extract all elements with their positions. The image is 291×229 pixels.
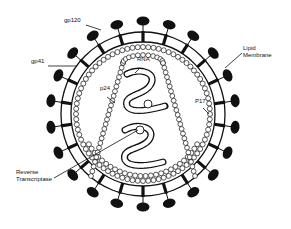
gp120-knob xyxy=(206,45,221,61)
gp41-stem xyxy=(163,183,166,194)
p17-matrix-bead xyxy=(207,101,212,106)
gp41-stem xyxy=(98,175,104,184)
p17-matrix-bead xyxy=(156,46,161,51)
p24-capsid-bead xyxy=(189,159,194,164)
p24-capsid-bead xyxy=(89,174,94,179)
p24-capsid-bead xyxy=(177,117,182,122)
gp41-stem xyxy=(61,102,72,104)
gp120-knob xyxy=(52,145,66,161)
p17-matrix-bead xyxy=(200,81,205,86)
gp41-stem xyxy=(197,161,205,168)
p24-capsid-bead xyxy=(106,112,111,117)
p24-capsid-bead xyxy=(183,141,188,146)
gp120-knob xyxy=(221,68,235,84)
gp120-knob xyxy=(85,28,101,43)
gp41-stem xyxy=(208,80,218,85)
p24-capsid-bead xyxy=(167,84,172,89)
gp41-stem xyxy=(68,144,78,149)
p17-matrix-bead xyxy=(138,173,143,178)
p17-matrix-bead xyxy=(195,142,200,147)
p17-matrix-bead xyxy=(125,177,130,182)
p24-capsid-bead xyxy=(118,70,123,75)
gp41-stem xyxy=(120,34,123,45)
p17-matrix-bead xyxy=(164,169,169,174)
p24-capsid-bead xyxy=(107,108,112,113)
gp41-stem xyxy=(182,175,188,184)
p17-matrix-bead xyxy=(113,167,118,172)
p24-capsid-bead xyxy=(187,155,192,160)
p17-matrix-bead xyxy=(148,173,153,178)
p17-matrix-bead xyxy=(143,173,148,178)
p24-capsid-bead xyxy=(182,136,187,141)
gp41-stem xyxy=(68,80,78,85)
p17-matrix-bead xyxy=(74,122,79,127)
p24-capsid-bead xyxy=(90,169,95,174)
p17-matrix-bead xyxy=(200,142,205,147)
hiv-virion-diagram: gp120 gp41 Lipid Membrane RNA p24 P17 Re… xyxy=(0,0,291,229)
gp120-knob xyxy=(52,68,66,84)
label-p24: p24 xyxy=(100,85,110,92)
gp41-stem xyxy=(182,44,188,53)
gp41-stem xyxy=(214,124,225,126)
leader-line-gp120 xyxy=(86,25,101,30)
p17-matrix-bead xyxy=(161,48,166,53)
p24-capsid-bead xyxy=(111,94,116,99)
label-reverse-transcriptase: Reverse Transcriptase xyxy=(16,169,52,183)
p17-matrix-bead xyxy=(127,172,132,177)
gp41-stem xyxy=(163,34,166,45)
p17-matrix-bead xyxy=(86,142,91,147)
gp120-knob xyxy=(185,185,201,200)
gp41-stem xyxy=(98,44,104,53)
p24-capsid-bead xyxy=(193,174,198,179)
gp120-knob xyxy=(109,19,124,31)
p17-matrix-bead xyxy=(177,161,182,166)
gp41-stem xyxy=(208,144,218,149)
gp41-stem xyxy=(61,124,72,126)
p17-matrix-bead xyxy=(79,86,84,91)
p17-matrix-bead xyxy=(195,72,200,77)
virion-illustration xyxy=(0,0,291,229)
p17-matrix-bead xyxy=(83,147,88,152)
p17-matrix-bead xyxy=(204,91,209,96)
p24-capsid-bead xyxy=(102,127,107,132)
p17-matrix-bead xyxy=(171,52,176,57)
p17-matrix-bead xyxy=(151,178,156,183)
p17-matrix-bead xyxy=(202,137,207,142)
p17-matrix-bead xyxy=(81,81,86,86)
p24-capsid-bead xyxy=(119,65,124,70)
gp120-knob xyxy=(65,45,80,61)
gp120-knob xyxy=(221,145,235,161)
p17-matrix-bead xyxy=(168,167,173,172)
p17-matrix-bead xyxy=(86,151,91,156)
p17-matrix-bead xyxy=(176,54,181,59)
p17-matrix-bead xyxy=(154,172,159,177)
label-gp120: gp120 xyxy=(64,17,81,24)
p17-matrix-bead xyxy=(120,48,125,53)
p17-matrix-bead xyxy=(101,57,106,62)
p17-matrix-bead xyxy=(115,50,120,55)
p17-matrix-bead xyxy=(206,127,211,132)
p17-matrix-bead xyxy=(206,96,211,101)
gp120-knob xyxy=(162,197,177,209)
p24-capsid-bead xyxy=(113,89,118,94)
p17-matrix-bead xyxy=(117,169,122,174)
p17-matrix-bead xyxy=(77,132,82,137)
p24-capsid-bead xyxy=(97,145,102,150)
p17-matrix-bead xyxy=(125,46,130,51)
gp41-stem xyxy=(120,183,123,194)
p17-matrix-bead xyxy=(146,178,151,183)
p24-capsid-bead xyxy=(115,79,120,84)
p17-matrix-bead xyxy=(135,178,140,183)
p24-capsid-bead xyxy=(131,54,136,59)
gp120-knob xyxy=(46,120,57,134)
label-rna: RNA xyxy=(137,56,150,63)
p17-matrix-bead xyxy=(77,91,82,96)
p24-capsid-bead xyxy=(99,136,104,141)
gp120-knob xyxy=(65,167,80,183)
p17-matrix-bead xyxy=(207,117,212,122)
p17-matrix-bead xyxy=(75,127,80,132)
p24-capsid-bead xyxy=(161,61,166,66)
p24-capsid-bead xyxy=(103,122,108,127)
p24-capsid-bead xyxy=(178,122,183,127)
p24-capsid-bead xyxy=(91,164,96,169)
